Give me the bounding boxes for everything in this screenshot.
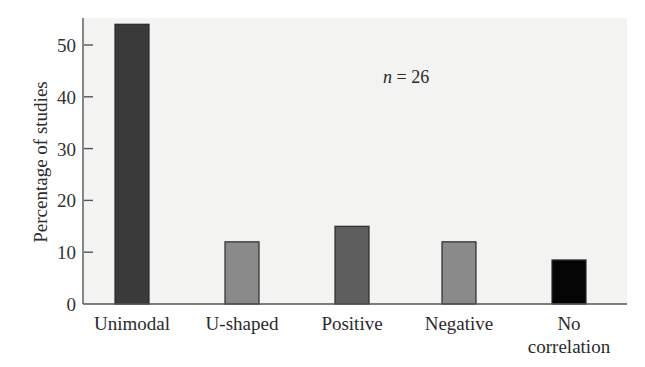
y-tick-label: 20 — [57, 190, 76, 211]
x-category-label: Unimodal — [94, 313, 170, 334]
y-axis-label: Percentage of studies — [30, 81, 51, 242]
y-tick-label: 50 — [57, 35, 76, 56]
x-category-label: Negative — [425, 313, 494, 334]
y-tick-label: 40 — [57, 87, 76, 108]
y-tick-label: 0 — [67, 294, 77, 315]
bar-positive — [335, 226, 369, 304]
x-category-label: Positive — [321, 313, 382, 334]
bar-no-correlation — [552, 260, 586, 304]
x-labels-group: UnimodalU-shapedPositiveNegativeNocorrel… — [94, 313, 611, 357]
bar-chart: 01020304050 UnimodalU-shapedPositiveNega… — [0, 0, 645, 367]
bar-unimodal — [115, 24, 149, 304]
bar-u-shaped — [225, 242, 259, 304]
y-tick-label: 10 — [57, 242, 76, 263]
bar-negative — [442, 242, 476, 304]
x-category-label: correlation — [528, 336, 611, 357]
sample-size-annotation: n = 26 — [383, 67, 429, 87]
x-category-label: No — [557, 313, 580, 334]
x-category-label: U-shaped — [206, 313, 279, 334]
y-tick-label: 30 — [57, 139, 76, 160]
